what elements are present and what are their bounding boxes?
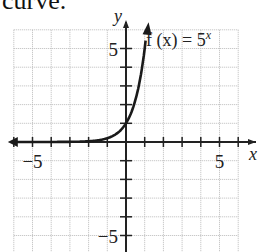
curve-left-arrow-icon: [8, 137, 18, 147]
function-label: f (x) = 5x: [146, 28, 212, 51]
x-tick-label-5: 5: [215, 151, 225, 172]
x-axis-label: x: [248, 144, 257, 164]
y-tick-label-neg5: −5: [98, 226, 118, 247]
exponential-graph: −555−5xyf (x) = 5x: [0, 0, 266, 252]
y-axis-arrow-icon: [123, 20, 129, 28]
y-tick-label-5: 5: [109, 39, 119, 60]
y-axis-label: y: [112, 6, 122, 26]
x-tick-label-neg5: −5: [22, 151, 42, 172]
